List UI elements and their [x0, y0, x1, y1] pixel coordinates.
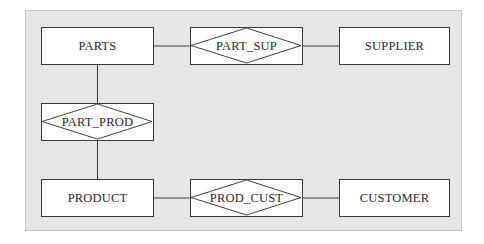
- entity-label: CUSTOMER: [360, 191, 429, 206]
- entity-label: PRODUCT: [68, 191, 128, 206]
- relationship-label: PART_PROD: [62, 115, 133, 130]
- relationship-part-sup: PART_SUP: [190, 27, 303, 65]
- entity-parts: PARTS: [41, 27, 154, 65]
- entity-customer: CUSTOMER: [339, 179, 450, 217]
- relationship-prod-cust: PROD_CUST: [190, 179, 303, 217]
- relationship-label: PROD_CUST: [210, 191, 283, 206]
- entity-label: SUPPLIER: [365, 39, 424, 54]
- entity-product: PRODUCT: [41, 179, 154, 217]
- relationship-part-prod: PART_PROD: [41, 103, 154, 141]
- entity-label: PARTS: [78, 39, 116, 54]
- relationship-label: PART_SUP: [216, 39, 277, 54]
- entity-supplier: SUPPLIER: [339, 27, 450, 65]
